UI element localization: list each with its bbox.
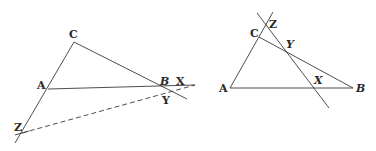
label-a: A [36,79,46,92]
label-x: X [176,75,185,88]
label-b: B [159,75,169,88]
label-z: Z [269,18,277,31]
label-x: X [313,74,323,87]
menelaus-diagrams: C A B X Y Z C Z Y A X B [0,0,376,151]
line-ab-extended [48,85,195,89]
label-b: B [355,82,365,95]
line-ac-extended [230,12,273,88]
transversal-zyx [257,13,329,108]
label-y: Y [286,38,295,51]
label-a: A [218,82,228,95]
line-cb-extended [74,42,187,99]
label-c: C [69,28,78,41]
transversal-zyx [22,85,195,133]
line-cb [259,37,353,88]
label-z: Z [14,121,22,134]
right-figure: C Z Y A X B [218,12,365,108]
line-ca-extended [15,42,74,143]
label-c: C [250,27,259,40]
left-figure: C A B X Y Z [14,28,195,143]
label-y: Y [161,94,170,107]
